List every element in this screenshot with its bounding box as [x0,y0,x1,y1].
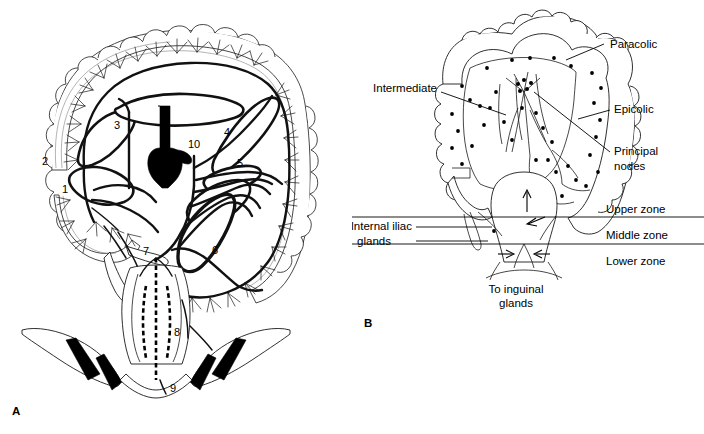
marker-number-5: 5 [237,157,243,169]
panel-b-letter: B [364,318,373,330]
panel-a-letter: A [12,406,21,418]
label-middle-zone: Middle zone [606,229,668,241]
label-intermediate: Intermediate [373,82,437,94]
marker-number-10: 10 [188,138,200,150]
figure-root: 1 2 3 4 5 6 7 8 9 10 [0,0,704,434]
label-upper-zone: Upper zone [606,203,665,215]
panel-b-illustration: Paracolic Epicolic Principal nodes Inter… [352,0,704,434]
leader-principal [534,92,610,152]
panel-b-zone-labels: Upper zone Middle zone Lower zone [606,203,668,267]
marker-number-3: 3 [114,119,120,131]
leader-epicolic [578,110,610,119]
leader-intermediate [441,92,506,115]
label-internal-iliac: Internal iliac [352,220,412,232]
marker-number-2: 2 [42,155,48,167]
label-to-inguinal: To inguinal [489,283,544,295]
label-internal-iliac-line2: glands [357,235,391,247]
marker-number-9: 9 [170,382,176,394]
marker-number-6: 6 [212,244,218,256]
label-paracolic: Paracolic [610,38,658,50]
marker-number-1: 1 [62,183,68,195]
label-principal-nodes-line2: nodes [614,160,646,172]
panel-a-illustration: 1 2 3 4 5 6 7 8 9 10 [0,0,352,434]
label-epicolic: Epicolic [614,103,654,115]
marker-number-4: 4 [224,126,230,138]
marker-number-8: 8 [174,326,180,338]
label-lower-zone: Lower zone [606,255,665,267]
label-principal: Principal [614,145,658,157]
label-to-inguinal-line2: glands [499,297,533,309]
marker-number-7: 7 [143,245,149,257]
